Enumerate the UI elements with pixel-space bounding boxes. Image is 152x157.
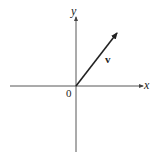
origin-label: 0 — [66, 88, 72, 99]
axes-diagram — [0, 0, 152, 157]
x-axis-label: x — [144, 79, 149, 91]
vector-label: v — [105, 54, 111, 65]
y-axis-label: y — [71, 5, 76, 17]
